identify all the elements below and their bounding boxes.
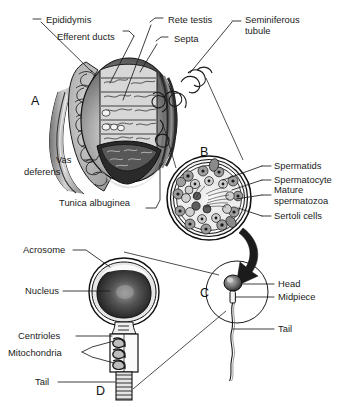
label-efferent-ducts: Efferent ducts: [57, 31, 115, 42]
label-nucleus: Nucleus: [25, 285, 59, 296]
label-seminiferous-tubule-line2: tubule: [245, 25, 271, 36]
sperm-mitochondria: [113, 338, 125, 370]
panel-letter-c: C: [200, 286, 209, 300]
panel-letter-a: A: [31, 94, 40, 108]
label-sertoli-cells: Sertoli cells: [274, 210, 322, 221]
panel-c-circle: [206, 261, 268, 323]
sperm-midpiece-c: [230, 291, 235, 303]
label-vas-deferens-line2: deferens: [24, 166, 61, 177]
label-midpiece-c: Midpiece: [278, 291, 316, 302]
label-head-c: Head: [278, 278, 300, 289]
panel-b-tubule-group: Spermatids Spermatocyte Mature spermatoz…: [167, 145, 332, 240]
label-tail-c: Tail: [278, 323, 292, 334]
sperm-head-c: [224, 275, 242, 291]
label-centrioles: Centrioles: [18, 330, 61, 341]
sperm-neck-centrioles: [112, 322, 136, 334]
label-spermatids: Spermatids: [274, 160, 322, 171]
anatomy-figure: Epididymis Efferent ducts Rete testis Se…: [0, 0, 339, 407]
sperm-tail-d: [116, 372, 132, 400]
label-mitochondria: Mitochondria: [8, 347, 62, 358]
label-tunica-albuginea: Tunica albuginea: [59, 197, 131, 208]
panel-c-sperm-group: Head Midpiece Tail C: [200, 261, 316, 381]
sperm-tail-c: [230, 303, 233, 381]
label-acrosome: Acrosome: [23, 244, 65, 255]
panel-d-sperm-group: Acrosome Nucleus Centrioles Mitochondria…: [8, 244, 159, 400]
label-tail-d: Tail: [35, 376, 49, 387]
label-septa: Septa: [174, 33, 199, 44]
panel-letter-b: B: [200, 145, 208, 159]
label-rete-testis: Rete testis: [168, 14, 213, 25]
label-mature-spermatozoa-line2: spermatozoa: [274, 195, 329, 206]
label-epididymis: Epididymis: [46, 14, 92, 25]
panel-a-testis-group: Epididymis Efferent ducts Rete testis Se…: [24, 14, 300, 208]
label-vas-deferens-line1: Vas: [56, 154, 72, 165]
figure-canvas: Epididymis Efferent ducts Rete testis Se…: [0, 0, 339, 407]
label-mature-spermatozoa-line1: Mature: [274, 184, 303, 195]
panel-letter-d: D: [96, 384, 105, 398]
label-seminiferous-tubule-line1: Seminiferous: [245, 14, 300, 25]
